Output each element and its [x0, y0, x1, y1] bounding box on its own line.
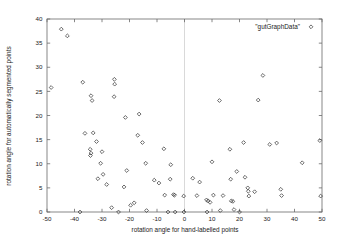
- y-axis-label: rotation angle for automatically segment…: [5, 46, 13, 185]
- x-tick-label: -40: [70, 215, 80, 222]
- y-tick-label: 20: [36, 112, 43, 119]
- x-tick-label: 50: [319, 215, 326, 222]
- scatter-plot: -50-40-30-20-1001020304050 0510152025303…: [0, 0, 342, 243]
- x-tick-label: -50: [43, 215, 53, 222]
- legend-label: "gutGraphData": [255, 23, 300, 31]
- x-tick-label: -10: [153, 215, 163, 222]
- y-tick-label: 15: [36, 136, 43, 143]
- x-tick-label: -30: [98, 215, 108, 222]
- x-tick-label: 30: [264, 215, 271, 222]
- y-tick-label: 0: [39, 208, 43, 215]
- chart-figure: -50-40-30-20-1001020304050 0510152025303…: [0, 0, 342, 243]
- x-axis-label: rotation angle for hand-labelled points: [132, 226, 239, 234]
- plot-background: [0, 0, 342, 243]
- y-tick-label: 25: [36, 88, 43, 95]
- x-tick-label: -20: [125, 215, 135, 222]
- x-tick-label: 40: [291, 215, 298, 222]
- x-tick-label: 0: [183, 215, 187, 222]
- y-tick-label: 35: [36, 39, 43, 46]
- y-tick-label: 40: [36, 15, 43, 22]
- x-tick-label: 20: [236, 215, 243, 222]
- y-tick-label: 10: [36, 160, 43, 167]
- x-tick-label: 10: [209, 215, 216, 222]
- y-tick-label: 5: [39, 184, 43, 191]
- y-tick-label: 30: [36, 63, 43, 70]
